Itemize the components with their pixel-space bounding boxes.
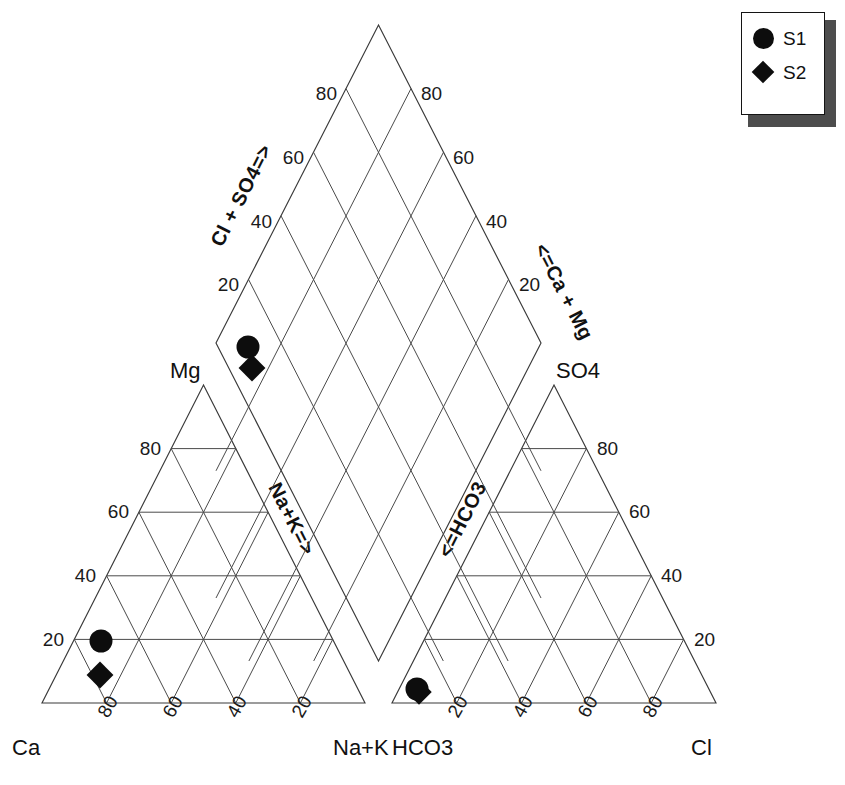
cation-bottom-tick-20-group: 20	[287, 692, 316, 721]
anion-grid-r-40	[489, 512, 586, 703]
cation-bottom-tick-40: 40	[222, 692, 251, 721]
anion-bottom-tick-80-group: 80	[638, 692, 667, 721]
data-point-s2-diamond[interactable]	[239, 355, 266, 382]
anion-bottom-tick-80: 80	[638, 692, 667, 721]
cation-grid-r-40	[139, 512, 236, 703]
hco3-arrow-label-group: <=HCO3	[434, 478, 491, 561]
legend-item-s1[interactable]: S1	[750, 25, 806, 51]
corner-label-hco3: HCO3	[392, 735, 453, 760]
diamond-panel: 20 40 60 80 20 40 60 80 Cl + SO4=> <=Ca …	[206, 25, 598, 661]
data-point-s1-diamond[interactable]	[237, 336, 260, 359]
cation-bottom-tick-20: 20	[287, 692, 316, 721]
cl-so4-arrow-label-group: Cl + SO4=>	[206, 141, 276, 250]
cation-left-tick-80: 80	[140, 438, 161, 459]
diamond-outline	[216, 25, 541, 661]
cation-left-tick-20: 20	[43, 629, 64, 650]
cation-left-tick-40: 40	[75, 565, 96, 586]
cl-so4-arrow-label: Cl + SO4=>	[206, 141, 276, 250]
legend-diamond-icon	[750, 59, 776, 85]
cation-grid-l-40	[171, 512, 268, 703]
diamond-right-tick-40: 40	[486, 211, 507, 232]
anion-bottom-tick-60: 60	[573, 692, 602, 721]
diamond-left-tick-80: 80	[316, 83, 337, 104]
corner-label-ca: Ca	[12, 735, 41, 760]
diamond-grid-ur-40	[249, 216, 476, 661]
cation-bottom-tick-60: 60	[158, 692, 187, 721]
cation-bottom-tick-80: 80	[93, 692, 122, 721]
anion-bottom-tick-20: 20	[443, 692, 472, 721]
legend-label-s1: S1	[783, 29, 806, 48]
anion-bottom-tick-40-group: 40	[508, 692, 537, 721]
anion-right-tick-80: 80	[597, 438, 618, 459]
apex-label-so4: SO4	[556, 358, 600, 383]
cation-bottom-tick-80-group: 80	[93, 692, 122, 721]
data-point-s1-cation[interactable]	[90, 630, 113, 653]
ca-mg-arrow-label: <=Ca + Mg	[530, 240, 597, 344]
anion-grid-l-40	[522, 512, 619, 703]
piper-diagram-svg: 20 40 60 80 80 60 40 20 Mg Na+K=>	[0, 0, 845, 785]
diamond-right-tick-20: 20	[519, 274, 540, 295]
cation-grid-l-80	[300, 639, 332, 703]
corner-label-cl: Cl	[691, 735, 712, 760]
legend-item-s2[interactable]: S2	[750, 59, 806, 85]
anion-right-tick-20: 20	[694, 629, 715, 650]
corner-label-nak: Na+K	[333, 735, 389, 760]
anion-right-tick-60: 60	[629, 501, 650, 522]
hco3-arrow-label: <=HCO3	[434, 478, 491, 561]
anion-right-tick-40: 40	[661, 565, 682, 586]
legend-label-s2: S2	[783, 63, 806, 82]
legend-box[interactable]: S1 S2	[741, 12, 832, 122]
anion-bottom-tick-40: 40	[508, 692, 537, 721]
piper-diagram-root: 20 40 60 80 80 60 40 20 Mg Na+K=>	[0, 0, 845, 785]
data-point-s1-anion[interactable]	[406, 678, 429, 701]
apex-label-mg: Mg	[170, 358, 201, 383]
diamond-right-tick-60: 60	[453, 147, 474, 168]
diamond-left-tick-20: 20	[218, 274, 239, 295]
diamond-right-tick-80: 80	[421, 83, 442, 104]
cation-bottom-tick-60-group: 60	[158, 692, 187, 721]
cation-left-tick-60: 60	[108, 501, 129, 522]
cation-bottom-tick-40-group: 40	[222, 692, 251, 721]
data-point-s2-cation[interactable]	[87, 662, 114, 689]
anion-bottom-tick-20-group: 20	[443, 692, 472, 721]
legend-circle-icon	[750, 25, 776, 51]
ca-mg-arrow-label-group: <=Ca + Mg	[530, 240, 597, 344]
anion-grid-l-80	[651, 639, 683, 703]
diamond-left-tick-60: 60	[283, 147, 304, 168]
anion-bottom-tick-60-group: 60	[573, 692, 602, 721]
diamond-grid-ul-40	[281, 216, 508, 661]
diamond-left-tick-40: 40	[251, 211, 272, 232]
